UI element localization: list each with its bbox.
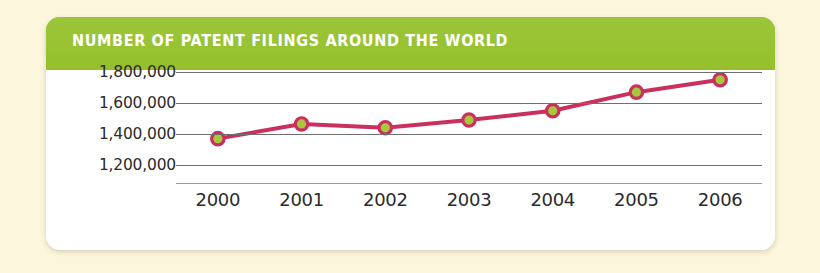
data-point-marker[interactable] [463, 114, 475, 126]
x-axis-tick-label: 2005 [614, 189, 659, 210]
data-point-marker[interactable] [547, 105, 559, 117]
gridline [176, 134, 762, 135]
data-point-marker[interactable] [295, 118, 307, 130]
chart-card: NUMBER OF PATENT FILINGS AROUND THE WORL… [46, 17, 775, 250]
y-axis-tick-label: 1,400,000 [58, 125, 176, 143]
x-axis-tick-labels: 2000200120022003200420052006 [176, 70, 762, 100]
y-axis-tick-label: 1,200,000 [58, 156, 176, 174]
x-axis-tick-label: 2002 [363, 189, 408, 210]
x-axis-tick-label: 2004 [530, 189, 575, 210]
data-point-marker[interactable] [379, 122, 391, 134]
x-axis-baseline [176, 183, 762, 184]
x-axis-tick-label: 2003 [447, 189, 492, 210]
y-axis-tick-label: 1,800,000 [58, 63, 176, 81]
chart-title: NUMBER OF PATENT FILINGS AROUND THE WORL… [72, 32, 508, 50]
x-axis-tick-label: 2006 [698, 189, 743, 210]
y-axis-tick-label: 1,600,000 [58, 94, 176, 112]
chart-plot-body: 1,800,0001,600,0001,400,0001,200,000 200… [46, 70, 775, 250]
x-axis-tick-label: 2001 [279, 189, 324, 210]
gridline [176, 103, 762, 104]
x-axis-tick-label: 2000 [196, 189, 241, 210]
y-axis-tick-labels: 1,800,0001,600,0001,400,0001,200,000 [58, 70, 176, 215]
gridline [176, 165, 762, 166]
